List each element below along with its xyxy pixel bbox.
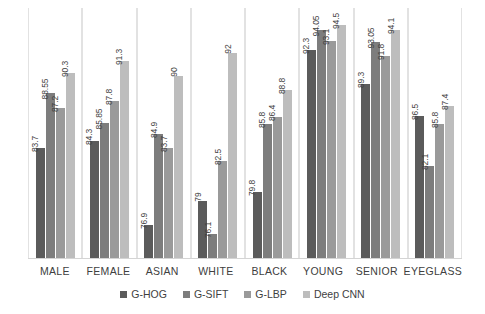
category-group-male: 83.788.5587.290.3	[28, 8, 82, 258]
bar-g-hog-eyeglass: 86.5	[415, 8, 424, 258]
bar-group: 89.393.0591.894.1	[355, 8, 407, 258]
bar-group: 7976.182.592	[192, 8, 244, 258]
category-group-asian: 76.984.983.790	[137, 8, 191, 258]
bar-g-lbp-eyeglass: 85.8	[435, 8, 444, 258]
bar-rect	[327, 41, 336, 258]
bar-value-label: 76.1	[204, 222, 213, 238]
bar-g-sift-male: 88.55	[46, 8, 55, 258]
bar-rect	[100, 123, 109, 258]
bar-rect	[56, 108, 65, 258]
bar-rect	[337, 25, 346, 258]
bar-g-lbp-senior: 91.8	[381, 8, 390, 258]
bar-value-label: 89.3	[357, 72, 366, 88]
legend-item-g-sift[interactable]: G-SIFT	[183, 288, 228, 300]
bar-deep-cnn-white: 92	[228, 8, 237, 258]
legend-item-deep-cnn[interactable]: Deep CNN	[303, 288, 365, 300]
bar-g-sift-eyeglass: 82.1	[425, 8, 434, 258]
bar-rect	[253, 192, 262, 258]
bar-rect	[415, 116, 424, 258]
bar-value-label: 82.5	[214, 149, 223, 165]
bar-value-label: 85.85	[95, 109, 104, 130]
bar-rect	[110, 101, 119, 258]
bar-value-label: 76.9	[140, 213, 149, 229]
bar-rect	[218, 161, 227, 258]
bar-value-label: 87.4	[441, 94, 450, 110]
bar-deep-cnn-senior: 94.1	[391, 8, 400, 258]
bar-deep-cnn-female: 91.3	[120, 8, 129, 258]
bar-g-lbp-young: 93.1	[327, 8, 336, 258]
category-group-black: 79.885.886.488.8	[245, 8, 299, 258]
bar-rect	[46, 93, 55, 258]
bar-value-label: 83.7	[160, 136, 169, 152]
legend-item-g-lbp[interactable]: G-LBP	[244, 288, 287, 300]
legend-label: G-LBP	[255, 288, 287, 300]
category-label-white: WHITE	[189, 262, 243, 280]
bar-rect	[90, 141, 99, 258]
category-group-female: 84.385.8587.891.3	[82, 8, 136, 258]
category-label-asian: ASIAN	[135, 262, 189, 280]
bar-g-hog-black: 79.8	[253, 8, 262, 258]
bar-value-label: 94.5	[332, 13, 341, 29]
bar-rect	[228, 53, 237, 258]
bar-g-sift-young: 94.05	[317, 8, 326, 258]
bar-deep-cnn-black: 88.8	[283, 8, 292, 258]
bar-value-label: 85.8	[431, 112, 440, 128]
legend-swatch-icon	[183, 291, 190, 298]
bar-g-lbp-male: 87.2	[56, 8, 65, 258]
bar-rect	[263, 124, 272, 258]
bar-g-sift-white: 76.1	[208, 8, 217, 258]
category-label-female: FEMALE	[82, 262, 136, 280]
legend-label: G-HOG	[131, 288, 167, 300]
bar-rect	[307, 50, 316, 258]
bar-rect	[273, 117, 282, 258]
bar-value-label: 84.9	[150, 122, 159, 138]
legend-label: Deep CNN	[314, 288, 365, 300]
bar-value-label: 86.4	[268, 105, 277, 121]
bar-rect	[36, 148, 45, 258]
category-group-young: 92.394.0593.194.5	[299, 8, 353, 258]
bar-rect	[154, 134, 163, 258]
bar-deep-cnn-young: 94.5	[337, 8, 346, 258]
bar-g-hog-male: 83.7	[36, 8, 45, 258]
legend-item-g-hog[interactable]: G-HOG	[120, 288, 167, 300]
bar-rect	[174, 76, 183, 258]
bar-value-label: 90	[170, 68, 179, 77]
bar-rect	[283, 90, 292, 258]
category-group-senior: 89.393.0591.894.1	[354, 8, 408, 258]
category-label-senior: SENIOR	[350, 262, 404, 280]
bar-value-label: 83.7	[31, 136, 40, 152]
bar-value-label: 88.55	[41, 78, 50, 99]
legend-swatch-icon	[120, 291, 127, 298]
bar-value-label: 79	[194, 193, 203, 202]
bar-rect	[164, 148, 173, 258]
bar-value-label: 82.1	[421, 154, 430, 170]
bar-value-label: 92	[224, 45, 233, 54]
bar-value-label: 93.1	[322, 29, 331, 45]
category-label-young: YOUNG	[296, 262, 350, 280]
category-group-eyeglass: 86.582.185.887.4	[408, 8, 462, 258]
bar-rect	[120, 61, 129, 258]
bar-value-label: 85.8	[258, 112, 267, 128]
bar-g-sift-female: 85.85	[100, 8, 109, 258]
bar-g-lbp-female: 87.8	[110, 8, 119, 258]
category-axis-line	[28, 258, 462, 259]
bar-value-label: 88.8	[278, 78, 287, 94]
bar-group: 83.788.5587.290.3	[29, 8, 81, 258]
bar-rect	[425, 166, 434, 258]
grouped-bar-chart: 83.788.5587.290.384.385.8587.891.376.984…	[0, 0, 485, 314]
bar-group: 76.984.983.790	[138, 8, 190, 258]
bar-g-sift-black: 85.8	[263, 8, 272, 258]
bar-g-lbp-black: 86.4	[273, 8, 282, 258]
category-label-male: MALE	[28, 262, 82, 280]
bar-value-label: 86.5	[411, 104, 420, 120]
bar-g-sift-asian: 84.9	[154, 8, 163, 258]
bar-deep-cnn-eyeglass: 87.4	[445, 8, 454, 258]
bar-value-label: 94.1	[387, 18, 396, 34]
bar-g-hog-white: 79	[198, 8, 207, 258]
bar-value-label: 90.3	[61, 61, 70, 77]
bar-value-label: 87.2	[51, 96, 60, 112]
bar-rect	[371, 42, 380, 258]
bar-deep-cnn-male: 90.3	[66, 8, 75, 258]
legend-swatch-icon	[244, 291, 251, 298]
bar-value-label: 79.8	[248, 180, 257, 196]
